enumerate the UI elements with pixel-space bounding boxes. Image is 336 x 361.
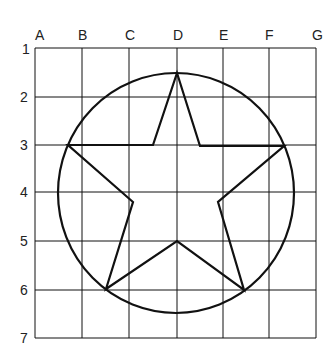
column-label: E	[219, 27, 228, 43]
row-label: 7	[20, 330, 28, 346]
circle	[58, 73, 294, 313]
row-label: 5	[20, 233, 28, 249]
row-label: 6	[20, 282, 28, 298]
star-grid-diagram: ABCDEFG1234567	[0, 0, 336, 361]
column-label: D	[173, 27, 183, 43]
column-label: B	[78, 27, 87, 43]
row-label: 1	[22, 41, 30, 57]
column-label: C	[125, 27, 135, 43]
row-label: 4	[20, 184, 28, 200]
star-shape	[68, 73, 284, 290]
column-label: A	[35, 27, 45, 43]
row-label: 3	[20, 137, 28, 153]
column-label: G	[312, 27, 323, 43]
column-label: F	[265, 27, 274, 43]
row-label: 2	[20, 89, 28, 105]
